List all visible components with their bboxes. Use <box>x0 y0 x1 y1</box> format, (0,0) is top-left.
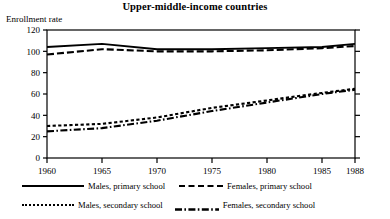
chart-figure: Upper-middle-income countries Enrollment… <box>0 0 390 219</box>
svg-text:120: 120 <box>27 25 41 35</box>
legend-item-males-secondary: Males, secondary school <box>22 200 163 210</box>
series-line <box>47 89 355 126</box>
legend-item-males-primary: Males, primary school <box>22 181 165 191</box>
svg-text:1960: 1960 <box>38 166 57 176</box>
svg-text:1985: 1985 <box>313 166 332 176</box>
svg-text:0: 0 <box>36 153 41 163</box>
svg-text:1970: 1970 <box>148 166 167 176</box>
legend-item-females-secondary: Females, secondary school <box>175 200 315 210</box>
svg-text:1988: 1988 <box>346 166 365 176</box>
legend-swatch-dotted-icon <box>22 204 74 206</box>
legend-swatch-solid-icon <box>22 185 84 187</box>
legend-swatch-dashdot-icon <box>175 203 219 206</box>
plot-area: 0204060801001201960196519701975198019851… <box>0 0 390 176</box>
legend-swatch-dashed-icon <box>179 185 223 187</box>
legend-label: Males, secondary school <box>78 200 163 210</box>
legend-label: Females, secondary school <box>223 200 315 210</box>
svg-text:40: 40 <box>31 111 41 121</box>
legend-label: Females, primary school <box>227 181 312 191</box>
chart-legend: Males, primary school Females, primary s… <box>22 176 374 214</box>
svg-text:1980: 1980 <box>258 166 277 176</box>
svg-text:60: 60 <box>31 89 41 99</box>
svg-text:100: 100 <box>27 47 41 57</box>
series-group <box>47 44 355 131</box>
legend-item-females-primary: Females, primary school <box>179 181 312 191</box>
svg-text:1965: 1965 <box>93 166 112 176</box>
svg-text:80: 80 <box>31 68 41 78</box>
svg-text:1975: 1975 <box>203 166 222 176</box>
legend-label: Males, primary school <box>88 181 165 191</box>
svg-text:20: 20 <box>31 132 41 142</box>
